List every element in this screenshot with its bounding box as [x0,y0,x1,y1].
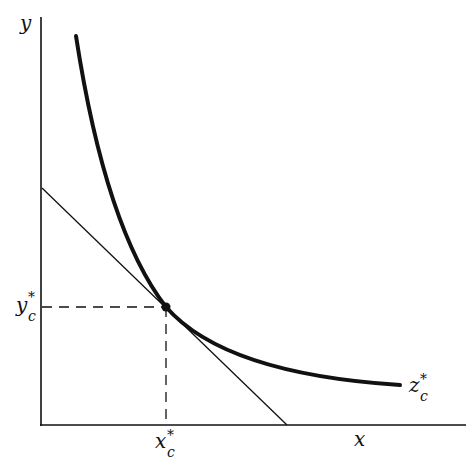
svg-text:c: c [28,308,36,324]
tangency-diagram: y x y * c x * c z * c [0,0,474,467]
x-star-label: x * c [155,427,175,460]
x-axis-label: x [354,427,365,451]
svg-text:c: c [167,444,175,460]
tangency-point [162,303,171,312]
svg-text:*: * [167,427,174,443]
svg-text:c: c [420,388,428,404]
svg-text:z: z [408,373,420,397]
svg-text:x: x [155,429,166,453]
svg-text:y: y [15,293,28,317]
y-star-label: y * c [15,289,36,324]
curve-label: z * c [408,371,428,404]
svg-text:*: * [28,289,35,305]
y-axis-label: y [19,11,32,35]
svg-text:*: * [420,371,427,387]
curve-z-c-star [76,36,400,385]
